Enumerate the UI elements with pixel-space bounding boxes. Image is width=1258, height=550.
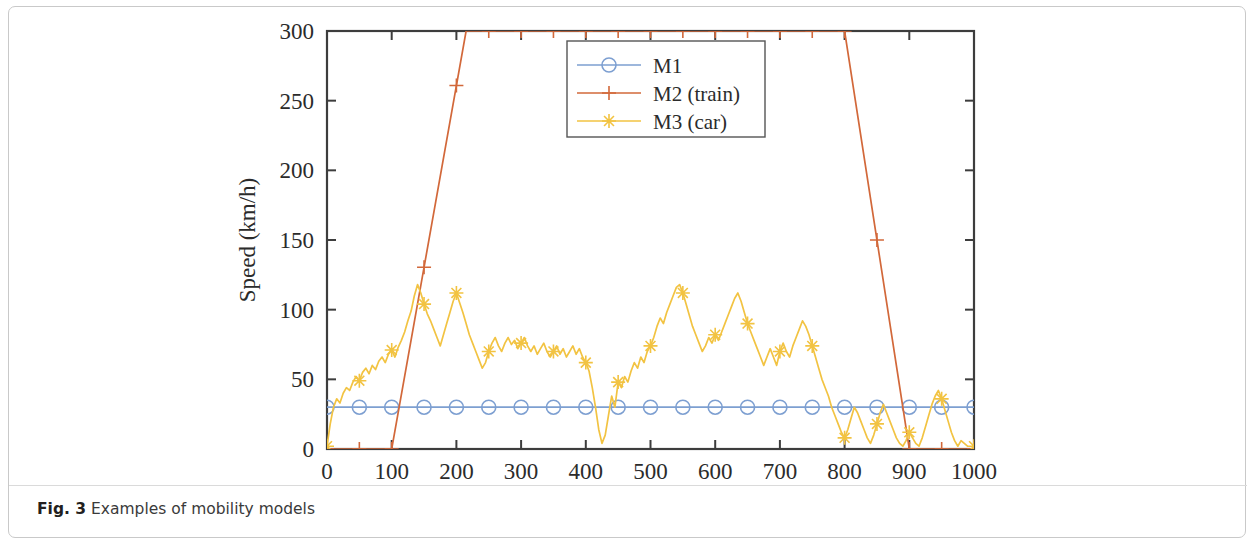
asterisk-marker	[514, 336, 528, 350]
plus-marker	[417, 260, 431, 274]
asterisk-marker	[805, 339, 819, 353]
asterisk-marker	[482, 344, 496, 358]
figure-card: 0100200300400500600700800900100005010015…	[8, 6, 1246, 538]
plus-marker	[352, 442, 366, 456]
asterisk-marker	[708, 328, 722, 342]
plus-marker	[385, 442, 399, 456]
plus-marker	[449, 79, 463, 93]
chart-plot-region: 0100200300400500600700800900100005010015…	[9, 7, 1247, 485]
x-tick-label: 700	[763, 459, 798, 484]
x-tick-label: 100	[374, 459, 409, 484]
x-tick-label: 900	[892, 459, 927, 484]
series-m3-car-	[320, 285, 981, 454]
y-tick-label: 300	[280, 19, 315, 44]
asterisk-marker	[449, 286, 463, 300]
mobility-models-chart: 0100200300400500600700800900100005010015…	[9, 7, 1247, 485]
legend-label: M2 (train)	[653, 82, 740, 106]
x-tick-label: 500	[633, 459, 668, 484]
plus-marker	[773, 24, 787, 38]
asterisk-marker	[352, 374, 366, 388]
plus-marker	[579, 24, 593, 38]
x-tick-label: 0	[321, 459, 333, 484]
asterisk-marker	[611, 375, 625, 389]
asterisk-marker	[676, 286, 690, 300]
plus-marker	[611, 24, 625, 38]
figure-caption: Fig. 3 Examples of mobility models	[37, 500, 315, 518]
plus-marker	[514, 24, 528, 38]
asterisk-marker	[935, 392, 949, 406]
asterisk-marker	[320, 439, 334, 453]
plus-marker	[676, 24, 690, 38]
plus-marker	[870, 233, 884, 247]
asterisk-marker	[417, 297, 431, 311]
x-tick-label: 300	[504, 459, 539, 484]
plus-marker	[838, 24, 852, 38]
plus-marker	[935, 442, 949, 456]
figure-number: Fig. 3	[37, 500, 86, 518]
plus-marker	[805, 24, 819, 38]
y-tick-label: 100	[280, 298, 315, 323]
asterisk-marker	[741, 317, 755, 331]
y-tick-label: 150	[280, 228, 315, 253]
asterisk-marker	[602, 114, 616, 128]
asterisk-marker	[385, 343, 399, 357]
y-tick-label: 250	[280, 89, 315, 114]
asterisk-marker	[838, 431, 852, 445]
figure-caption-text: Examples of mobility models	[91, 500, 315, 518]
asterisk-marker	[773, 344, 787, 358]
plus-marker	[482, 24, 496, 38]
x-tick-label: 400	[569, 459, 604, 484]
x-tick-label: 600	[698, 459, 733, 484]
asterisk-marker	[902, 425, 916, 439]
plus-marker	[644, 24, 658, 38]
legend-label: M3 (car)	[653, 110, 727, 134]
plus-marker	[708, 24, 722, 38]
y-tick-label: 0	[303, 437, 315, 462]
x-tick-label: 200	[439, 459, 474, 484]
asterisk-marker	[644, 339, 658, 353]
y-axis-title: Speed (km/h)	[235, 178, 260, 303]
x-tick-label: 800	[827, 459, 862, 484]
asterisk-marker	[546, 344, 560, 358]
asterisk-marker	[870, 417, 884, 431]
asterisk-marker	[967, 439, 981, 453]
legend-label: M1	[653, 54, 682, 78]
plus-marker	[741, 24, 755, 38]
series-line	[327, 285, 968, 447]
figure-caption-bar: Fig. 3 Examples of mobility models	[9, 485, 1247, 538]
y-tick-label: 50	[291, 367, 314, 392]
asterisk-marker	[579, 356, 593, 370]
y-tick-label: 200	[280, 158, 315, 183]
plus-marker	[546, 24, 560, 38]
x-tick-label: 1000	[951, 459, 997, 484]
